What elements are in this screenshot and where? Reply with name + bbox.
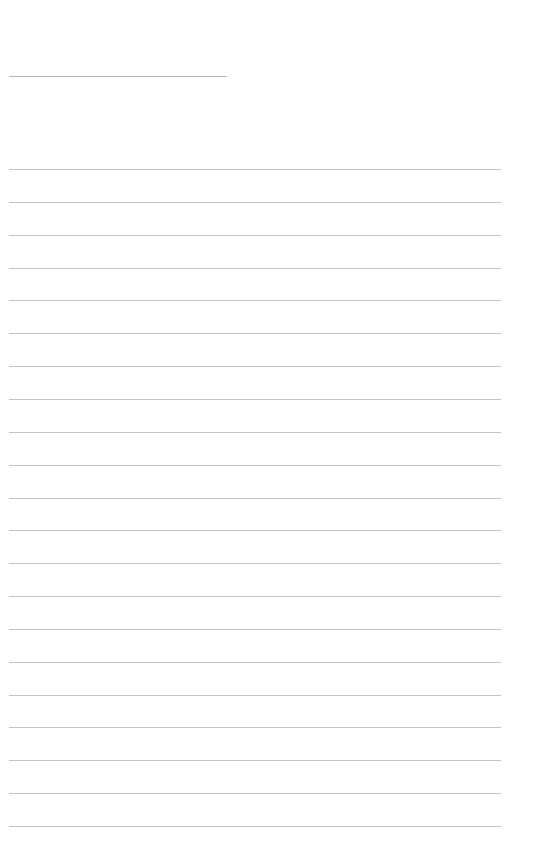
ruled-line [9,530,501,531]
title-line [9,76,227,77]
ruled-line [9,300,501,301]
ruled-line [9,399,501,400]
ruled-line [9,826,501,827]
ruled-line [9,169,501,170]
ruled-line [9,333,501,334]
ruled-line [9,202,501,203]
ruled-line [9,268,501,269]
ruled-line [9,727,501,728]
ruled-line [9,465,501,466]
ruled-line [9,760,501,761]
ruled-line [9,498,501,499]
ruled-line [9,235,501,236]
ruled-line [9,596,501,597]
ruled-line [9,432,501,433]
ruled-line [9,629,501,630]
ruled-line [9,695,501,696]
ruled-line [9,366,501,367]
ruled-line [9,793,501,794]
ruled-line [9,563,501,564]
ruled-line [9,662,501,663]
